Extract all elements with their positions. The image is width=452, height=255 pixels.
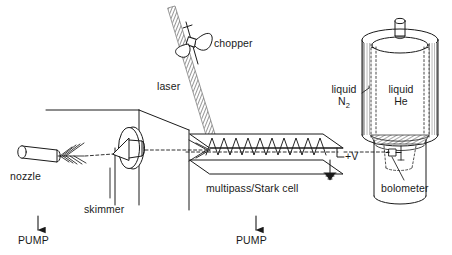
- nozzle-label: nozzle: [10, 170, 41, 182]
- liquid-n2-label: liquid N2: [322, 83, 366, 111]
- skimmer-label: skimmer: [84, 203, 124, 215]
- skimmer-assembly: [113, 127, 145, 169]
- nozzle-assembly: [18, 146, 60, 162]
- vacuum-chamber-walls: [46, 110, 189, 210]
- liquid-he-line2: He: [394, 95, 408, 107]
- laser-label: laser: [157, 80, 180, 92]
- pump-left-label: PUMP: [18, 234, 49, 246]
- chopper-label: chopper: [214, 37, 253, 49]
- diagram-canvas: nozzle skimmer laser chopper multipass/S…: [0, 0, 452, 255]
- liquid-n2-subscript: 2: [346, 101, 350, 110]
- voltage-label: +V: [345, 150, 358, 162]
- cryostat-dewar: [362, 18, 438, 204]
- liquid-he-line1: liquid: [388, 83, 413, 95]
- bolometer-leader: [392, 157, 404, 180]
- voltage-lead: [337, 148, 344, 157]
- pump-arrows: [38, 216, 256, 230]
- liquid-n2-line2: N: [338, 95, 346, 107]
- molecular-beam-axis-source: [85, 154, 113, 156]
- pump-right-label: PUMP: [236, 234, 267, 246]
- nozzle-spray: [58, 143, 86, 164]
- bolometer-label: bolometer: [381, 182, 429, 194]
- liquid-he-label: liquid He: [381, 83, 421, 108]
- liquid-n2-line1: liquid: [331, 83, 356, 95]
- multipass-stark-cell-label: multipass/Stark cell: [206, 182, 298, 194]
